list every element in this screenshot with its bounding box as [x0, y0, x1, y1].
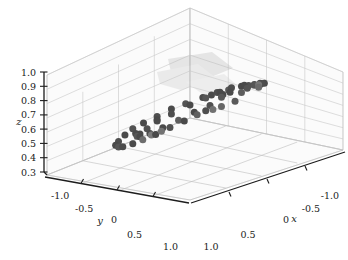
z-tick-labels: 1.0 0.9 0.8 0.7 0.6 0.5 0.4 0.3: [21, 67, 36, 178]
scatter-point: [168, 111, 175, 118]
x-tick-label: -0.5: [302, 203, 320, 214]
z-axis-label: z: [15, 116, 22, 127]
x-tick-label: -1.0: [321, 190, 339, 201]
scatter-point: [244, 85, 251, 92]
y-tick-label: 0.5: [127, 229, 142, 240]
scatter-point: [139, 136, 146, 143]
z-tick-label: 0.4: [21, 152, 36, 163]
figure-canvas: 1.0 0.9 0.8 0.7 0.6 0.5 0.4 0.3 -1.0 -0.…: [0, 0, 348, 260]
x-tick-labels: 1.0 0.5 0 -0.5 -1.0: [203, 190, 339, 252]
y-tick-label: 1.0: [163, 241, 178, 252]
z-tick-label: 0.9: [21, 81, 36, 92]
y-tick-labels: -1.0 -0.5 0 0.5 1.0: [51, 190, 178, 252]
x-axis-label: x: [291, 213, 297, 224]
scatter-point: [255, 84, 262, 91]
scatter-point: [121, 132, 128, 139]
scatter-point: [194, 111, 201, 118]
y-axis-label: y: [96, 215, 103, 226]
scatter-point: [238, 89, 245, 96]
scatter-point: [119, 143, 126, 150]
x-tick-label: 0.5: [240, 229, 255, 240]
z-tick-label: 0.6: [21, 124, 36, 135]
z-tick-label: 0.8: [21, 95, 36, 106]
x-tick-label: 1.0: [203, 241, 218, 252]
y-tick-label: -1.0: [51, 190, 69, 201]
y-tick-label: -0.5: [75, 203, 93, 214]
scatter-point: [181, 117, 188, 124]
z-tick-label: 1.0: [21, 67, 36, 78]
scatter-point: [202, 107, 209, 114]
scatter-point: [129, 140, 136, 147]
scatter-point: [166, 124, 173, 131]
scatter-point: [209, 106, 216, 113]
scatter-point: [232, 98, 239, 105]
z-tick-label: 0.3: [21, 167, 36, 178]
scatter-point: [187, 102, 194, 109]
scatter-point: [154, 118, 161, 125]
scatter-point: [218, 94, 225, 101]
scatter-point: [227, 89, 234, 96]
x-tick-label: 0: [283, 214, 289, 225]
z-tick-label: 0.7: [21, 109, 36, 120]
y-tick-label: 0: [111, 214, 117, 225]
scatter-point: [202, 95, 209, 102]
scatter3d-plot: 1.0 0.9 0.8 0.7 0.6 0.5 0.4 0.3 -1.0 -0.…: [0, 0, 348, 260]
z-tick-label: 0.5: [21, 138, 36, 149]
scatter-point: [158, 128, 165, 135]
scatter-point: [218, 103, 225, 110]
